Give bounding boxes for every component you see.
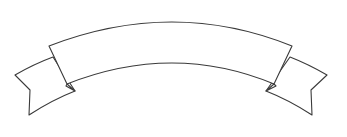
ribbon-banner-canvas	[0, 0, 347, 137]
ribbon-banner-icon	[0, 0, 347, 137]
ribbon-main-band	[49, 22, 292, 84]
